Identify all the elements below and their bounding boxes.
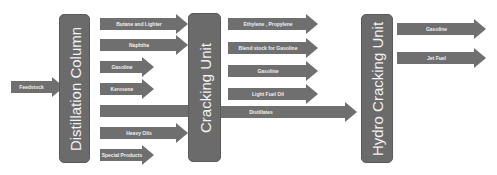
cracking-unit: Cracking Unit — [188, 13, 221, 162]
hydro-output-gasoline-arrow: Gasoline — [397, 23, 487, 35]
hydrocracking-unit: Hydro Cracking Unit — [361, 14, 393, 163]
output-distillates-feed — [100, 105, 190, 117]
cracking-output-gasoline-arrow: Gasoline — [228, 65, 318, 77]
cracking-output-light-fuel-oil-arrow: Light Fuel Oil — [228, 88, 318, 100]
output-heavy-oils-arrow: Heavy Oils — [100, 127, 188, 139]
distillation-column: Distillation Column — [59, 14, 90, 163]
output-gasoline-arrow: Gasoline — [100, 61, 155, 73]
output-naphtha-arrow: Naphtha — [100, 39, 188, 51]
output-butane-arrow: Butane and Lighter — [100, 18, 188, 30]
feedstock-arrow: Feedstock — [11, 81, 63, 93]
distillates-arrow: Distillates — [221, 106, 359, 118]
cracking-output-blendstock-arrow: Blend stock for Gasoline — [228, 42, 318, 54]
hydro-output-jet-fuel-arrow: Jet Fuel — [397, 52, 487, 64]
output-kerosene-arrow: Kerosene — [100, 83, 155, 95]
output-special-products-arrow: Special Products — [100, 149, 155, 161]
cracking-output-ethylene-arrow: Ethylene , Propylene — [228, 18, 318, 30]
